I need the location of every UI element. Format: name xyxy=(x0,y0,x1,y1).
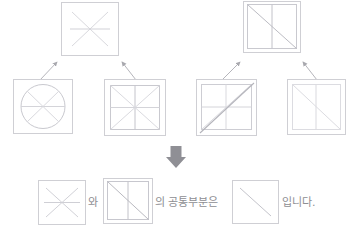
top-left-box xyxy=(62,3,119,56)
conclusion-box-a xyxy=(39,181,86,225)
down-arrow xyxy=(166,146,186,168)
up-arrow-4 xyxy=(303,62,317,80)
source-box-2 xyxy=(105,80,166,136)
ending-text: 입니다. xyxy=(282,197,316,208)
conclusion-box-c xyxy=(233,181,279,224)
up-arrow-2 xyxy=(122,62,136,80)
connector-text-wa: 와 xyxy=(88,197,98,208)
source-box-1 xyxy=(14,80,73,134)
source-box-4 xyxy=(288,80,346,135)
source-box-3 xyxy=(197,80,257,136)
figure-canvas: 와 의 공통부분은 입니다. xyxy=(0,0,349,245)
conclusion-box-b xyxy=(104,179,153,224)
up-arrow-1 xyxy=(40,62,57,80)
up-arrow-3 xyxy=(222,62,240,80)
top-right-box xyxy=(244,2,301,53)
connector-text-common-part: 의 공통부분은 xyxy=(155,197,219,208)
